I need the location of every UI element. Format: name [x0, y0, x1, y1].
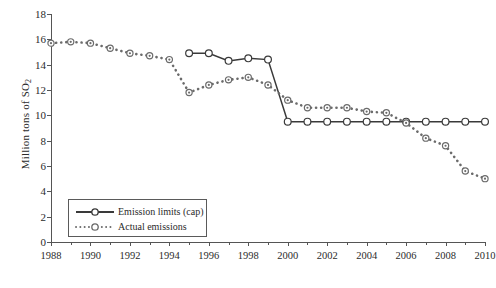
x-tick-mark: [367, 242, 368, 246]
data-point-center: [129, 52, 131, 54]
y-tick-label: 2: [41, 211, 47, 223]
data-point-marker: [324, 118, 331, 125]
y-axis-title-text: Million tons of SO: [19, 83, 31, 169]
x-tick-mark: [485, 242, 486, 246]
y-tick-label: 14: [35, 59, 46, 71]
series-line: [189, 53, 485, 121]
data-point-marker: [284, 118, 291, 125]
x-tick-label: 2002: [317, 250, 338, 261]
x-tick-label: 2006: [396, 250, 417, 261]
data-point-marker: [304, 118, 311, 125]
x-tick-label: 2000: [277, 250, 298, 261]
data-point-center: [50, 42, 52, 44]
data-point-center: [366, 110, 368, 112]
data-point-center: [208, 84, 210, 86]
x-tick-label: 1992: [119, 250, 140, 261]
x-tick-mark: [386, 242, 387, 245]
data-point-marker: [482, 118, 489, 125]
data-point-center: [109, 47, 111, 49]
x-tick-label: 1988: [41, 250, 62, 261]
x-tick-label: 2004: [356, 250, 377, 261]
x-tick-mark: [209, 242, 210, 246]
legend-label-cap: Emission limits (cap): [115, 206, 204, 217]
y-tick-label: 18: [35, 8, 46, 20]
data-point-center: [464, 170, 466, 172]
x-tick-label: 2008: [435, 250, 456, 261]
data-point-marker: [363, 118, 370, 125]
x-tick-mark: [150, 242, 151, 245]
legend-item-actual: Actual emissions: [75, 219, 200, 234]
x-tick-label: 1998: [238, 250, 259, 261]
data-point-center: [425, 137, 427, 139]
y-tick-label: 6: [41, 160, 47, 172]
x-tick-mark: [446, 242, 447, 246]
data-point-center: [89, 42, 91, 44]
data-point-center: [405, 122, 407, 124]
data-point-center: [444, 145, 446, 147]
y-axis-title: Million tons of SO2: [19, 44, 33, 204]
legend-item-cap: Emission limits (cap): [75, 204, 200, 219]
x-tick-mark: [90, 242, 91, 246]
x-tick-mark: [169, 242, 170, 246]
data-point-marker: [383, 118, 390, 125]
data-point-center: [326, 107, 328, 109]
x-tick-mark: [347, 242, 348, 245]
x-tick-mark: [406, 242, 407, 246]
x-tick-label: 1994: [159, 250, 180, 261]
y-tick-label: 8: [41, 135, 47, 147]
x-tick-label: 2010: [475, 250, 496, 261]
data-point-marker: [245, 55, 252, 62]
x-tick-mark: [327, 242, 328, 246]
legend-symbol-solid-line: [75, 206, 115, 218]
data-point-marker: [265, 56, 272, 63]
data-point-marker: [462, 118, 469, 125]
data-point-marker: [205, 50, 212, 57]
x-tick-mark: [51, 242, 52, 246]
series-cap: [186, 50, 489, 125]
data-point-center: [346, 107, 348, 109]
data-point-marker: [225, 57, 232, 64]
y-tick-label: 16: [35, 33, 46, 45]
data-point-center: [149, 55, 151, 57]
y-tick-label: 0: [41, 236, 47, 248]
x-tick-mark: [71, 242, 72, 245]
y-axis-title-subscript: 2: [24, 79, 33, 83]
data-point-center: [188, 91, 190, 93]
y-tick-label: 10: [35, 109, 46, 121]
legend-symbol-dotted-line: [75, 221, 115, 233]
chart-legend: Emission limits (cap) Actual emissions: [68, 199, 207, 237]
x-tick-mark: [268, 242, 269, 245]
data-point-marker: [186, 50, 193, 57]
x-tick-mark: [248, 242, 249, 246]
x-tick-mark: [288, 242, 289, 246]
x-tick-mark: [110, 242, 111, 245]
data-point-center: [385, 112, 387, 114]
data-point-center: [70, 41, 72, 43]
data-point-marker: [422, 118, 429, 125]
data-point-marker: [344, 118, 351, 125]
x-tick-mark: [465, 242, 466, 245]
data-point-center: [227, 79, 229, 81]
data-point-center: [287, 99, 289, 101]
data-point-center: [306, 107, 308, 109]
x-tick-mark: [130, 242, 131, 246]
legend-label-actual: Actual emissions: [115, 221, 187, 232]
x-tick-mark: [229, 242, 230, 245]
data-point-center: [247, 76, 249, 78]
x-tick-label: 1990: [80, 250, 101, 261]
data-point-center: [168, 59, 170, 61]
y-tick-label: 12: [35, 84, 46, 96]
data-point-center: [267, 84, 269, 86]
x-tick-mark: [307, 242, 308, 245]
data-point-center: [484, 178, 486, 180]
x-tick-mark: [426, 242, 427, 245]
y-tick-label: 4: [41, 185, 47, 197]
x-tick-label: 1996: [198, 250, 219, 261]
x-tick-mark: [189, 242, 190, 245]
data-point-marker: [442, 118, 449, 125]
